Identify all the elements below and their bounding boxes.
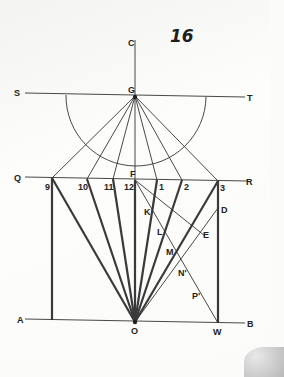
line-o-d — [135, 208, 218, 322]
label-l: L — [157, 227, 163, 237]
label-e: E — [203, 230, 209, 240]
label-p: P' — [192, 291, 200, 301]
label-hour-11: 11 — [104, 182, 114, 192]
label-f: F — [130, 169, 136, 179]
point-g — [133, 95, 137, 99]
label-m: M — [166, 247, 174, 257]
label-hour-2: 2 — [184, 182, 189, 192]
label-b: B — [247, 319, 254, 329]
page-curl — [244, 347, 284, 377]
label-t: T — [247, 93, 253, 103]
label-hour-9: 9 — [45, 182, 50, 192]
label-s: S — [14, 88, 20, 98]
label-q: Q — [14, 173, 21, 183]
label-hour-10: 10 — [78, 182, 88, 192]
label-c: C — [128, 38, 135, 48]
page-number: 16 — [170, 26, 194, 46]
label-hour-3: 3 — [220, 183, 225, 193]
label-o: O — [131, 326, 138, 336]
label-a: A — [17, 315, 24, 325]
label-d: D — [221, 205, 228, 215]
label-w: W — [213, 327, 222, 337]
label-n: N' — [178, 268, 187, 278]
label-r: R — [246, 177, 253, 187]
point-o — [133, 320, 137, 324]
semicircle — [66, 95, 206, 166]
label-g: G — [128, 85, 135, 95]
label-hour-1: 1 — [159, 182, 164, 192]
label-hour-12: 12 — [124, 182, 134, 192]
label-k: K — [144, 207, 151, 217]
